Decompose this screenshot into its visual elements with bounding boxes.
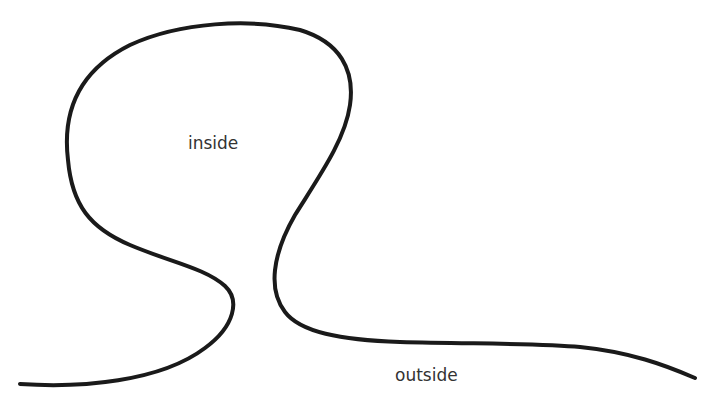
jordan-curve-drawing xyxy=(0,0,725,408)
outside-label: outside xyxy=(395,365,458,385)
boundary-curve xyxy=(20,23,695,385)
inside-label: inside xyxy=(188,133,238,153)
